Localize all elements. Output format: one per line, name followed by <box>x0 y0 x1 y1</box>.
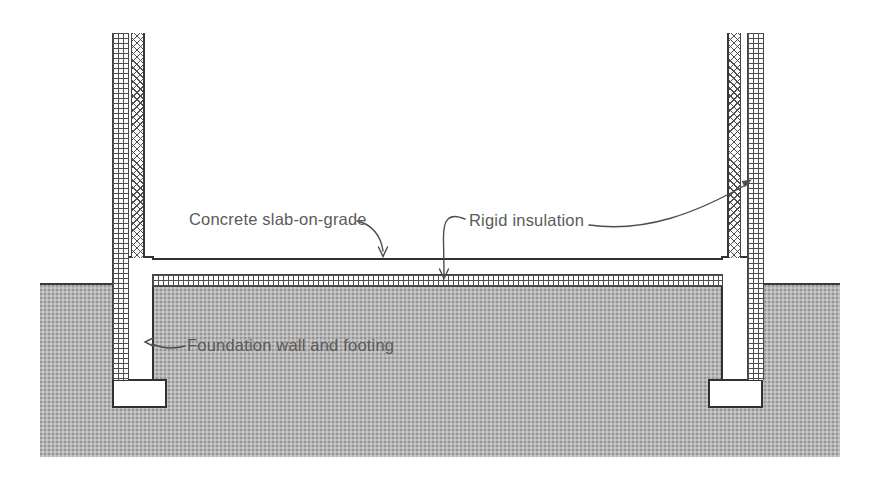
wall-insulation-right <box>727 33 741 258</box>
label-concrete-slab: Concrete slab-on-grade <box>189 210 367 228</box>
wall-sheathing-right <box>747 33 764 380</box>
ground-earth-section <box>40 283 840 457</box>
leader-line-rigid-right <box>589 183 749 227</box>
wall-sheathing-left <box>112 33 129 380</box>
label-rigid-insulation: Rigid insulation <box>469 211 584 229</box>
arrowhead-slab <box>379 247 388 257</box>
label-foundation-wall: Foundation wall and footing <box>187 336 394 354</box>
foundation-wall-right <box>721 256 750 381</box>
footing-right <box>708 379 763 408</box>
footing-left <box>112 379 167 408</box>
foundation-wall-left <box>126 256 154 381</box>
rigid-insulation-layer <box>152 274 723 287</box>
wall-insulation-left <box>131 33 145 258</box>
construction-detail-diagram: Concrete slab-on-grade Rigid insulation … <box>0 0 870 485</box>
